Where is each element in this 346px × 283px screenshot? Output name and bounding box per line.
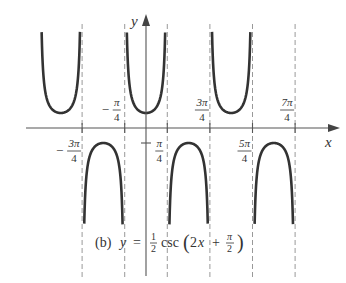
tick-label-den: 4 [157, 152, 163, 164]
tick-label-num: 3π [68, 137, 81, 149]
tick-label-num: π [157, 137, 163, 149]
caption-arg-frac-den: 2 [227, 243, 232, 254]
tick-label-den: 4 [199, 111, 205, 123]
y-axis-label: y [129, 13, 138, 29]
y-axis-arrow-icon [142, 14, 150, 26]
caption-arg-var: x [197, 235, 205, 250]
caption-arg-frac-num: π [227, 231, 233, 242]
tick-label-den: 4 [114, 111, 120, 123]
tick-label-den: 4 [71, 152, 77, 164]
caption-prefix: (b) [95, 235, 112, 251]
tick-label: π4 [155, 137, 163, 164]
tick-label-num: 5π [239, 137, 251, 149]
x-axis-arrow-icon [328, 124, 340, 132]
caption-lhs: y [118, 235, 127, 250]
lower-branch [84, 143, 122, 224]
caption-paren-open: ( [183, 231, 190, 254]
lower-branch [255, 143, 293, 224]
caption-func: csc [161, 235, 179, 250]
tick-label-num: 3π [195, 96, 208, 108]
tick-label-den: 4 [242, 152, 248, 164]
caption-coef-den: 2 [151, 243, 156, 254]
caption-coef-num: 1 [151, 231, 156, 242]
tick-label: 3π4 [195, 96, 209, 123]
tick-label-sign: − [102, 102, 109, 117]
csc-graph: x y −3π4−π4π43π45π47π4 (b) y = 1 2 csc (… [0, 0, 346, 283]
tick-label: 5π4 [238, 137, 252, 164]
caption: (b) y = 1 2 csc ( 2 x + π 2 ) [95, 231, 244, 254]
tick-label-sign: − [56, 143, 63, 158]
upper-branch [212, 32, 250, 113]
tick-label: −3π4 [56, 137, 81, 164]
tick-label: 7π4 [280, 96, 294, 123]
caption-eq: = [133, 235, 141, 250]
upper-branch [42, 32, 80, 113]
caption-arg-plus: + [212, 235, 220, 250]
tick-label-num: 7π [282, 96, 294, 108]
caption-arg-coef: 2 [190, 235, 197, 250]
lower-branch [169, 143, 207, 224]
tick-label-num: π [114, 96, 120, 108]
caption-paren-close: ) [237, 231, 244, 254]
tick-label-den: 4 [284, 111, 290, 123]
tick-label: −π4 [102, 96, 121, 123]
x-axis-label: x [324, 134, 332, 150]
